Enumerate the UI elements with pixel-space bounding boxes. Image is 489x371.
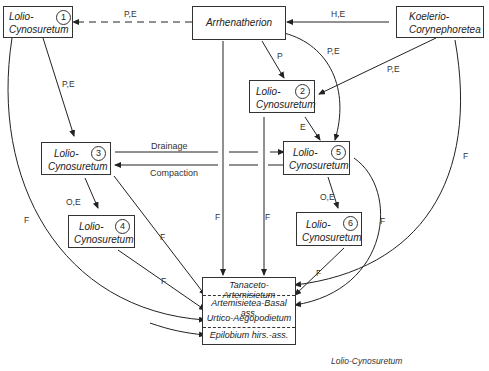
node-label-line2: Corynephoretea xyxy=(409,23,483,36)
node-lolio-cynosuretum-2: Lolio- Cynosuretum 2 xyxy=(249,80,315,113)
edge-label-arr-to-5: P,E xyxy=(327,46,340,56)
caption: Lolio-Cynosuretum xyxy=(331,356,402,366)
row-tanaceto-artemisietum: Tanaceto-Artemisietum xyxy=(203,280,295,300)
node-koelerio-corynephoretea: Koelerio- Corynephoretea xyxy=(396,6,484,38)
edge-label-drainage: Drainage xyxy=(151,141,188,151)
node-label-line1: Koelerio- xyxy=(409,10,483,23)
node-label-line2: Cynosuretum xyxy=(74,233,134,246)
node-label-line2: Cynosuretum xyxy=(289,159,349,172)
edge-label-arr-to-2: P xyxy=(277,51,283,61)
edge-label-f: F xyxy=(215,212,220,222)
node-number-badge: 1 xyxy=(56,10,71,25)
target-communities-box: Tanaceto-Artemisietum Artemisietea-Basal… xyxy=(202,277,296,345)
edge-label-f: F xyxy=(316,268,321,278)
node-number-badge: 3 xyxy=(91,146,106,161)
row-urtico-aegopodietum: Urtico-Aegopodietum xyxy=(203,313,295,323)
dashed-divider xyxy=(203,327,295,328)
edge-label-f: F xyxy=(160,232,165,242)
node-number-badge: 4 xyxy=(115,219,130,234)
node-label-line2: Cynosuretum xyxy=(48,160,110,173)
edge-label-f: F xyxy=(265,212,270,222)
edge-label-f: F xyxy=(24,215,29,225)
edge-label-5-to-6: O,E xyxy=(320,192,335,202)
edge-label-koel-to-2: P,E xyxy=(387,64,400,74)
edge-label-koel-to-arr: H,E xyxy=(331,9,345,19)
row-epilobium: Epilobium hirs.-ass. xyxy=(203,330,295,340)
edge-label-1-to-3: P,E xyxy=(62,79,75,89)
node-number-badge: 6 xyxy=(343,216,358,231)
node-arrhenatherion: Arrhenatherion xyxy=(192,6,286,40)
edge-label-compaction: Compaction xyxy=(150,168,198,178)
edge-label-f: F xyxy=(161,276,166,286)
edge-label-3-to-4: O,E xyxy=(66,197,81,207)
edge-label-2-to-5: E xyxy=(300,122,306,132)
edge-label-arr-to-1: P,E xyxy=(124,9,137,19)
dashed-divider xyxy=(203,295,295,296)
edge-label-f: F xyxy=(380,216,385,226)
node-number-badge: 2 xyxy=(295,84,310,99)
node-label-line2: Cynosuretum xyxy=(256,98,314,111)
node-lolio-cynosuretum-6: Lolio- Cynosuretum 6 xyxy=(296,212,362,246)
node-number-badge: 5 xyxy=(331,145,346,160)
node-lolio-cynosuretum-4: Lolio- Cynosuretum 4 xyxy=(68,215,135,248)
node-lolio-cynosuretum-1: Lolio- Cynosuretum 1 xyxy=(3,6,73,38)
edge-label-f: F xyxy=(463,151,468,161)
node-label-line2: Cynosuretum xyxy=(302,231,361,244)
node-label: Arrhenatherion xyxy=(206,17,272,28)
node-lolio-cynosuretum-5: Lolio- Cynosuretum 5 xyxy=(283,141,350,175)
node-lolio-cynosuretum-3: Lolio- Cynosuretum 3 xyxy=(41,142,111,175)
